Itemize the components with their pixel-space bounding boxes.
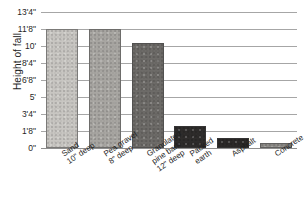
bar (46, 29, 78, 148)
y-axis-tick-label: 5' (0, 93, 36, 102)
gridline (41, 131, 297, 132)
gridline (41, 114, 297, 115)
gridline (41, 97, 297, 98)
y-axis-tick-label: 8'4" (0, 59, 36, 68)
y-axis-tick-label: 10' (0, 42, 36, 51)
y-axis-tick-label: 11'8" (0, 25, 36, 34)
gridline (41, 46, 297, 47)
bar-texture (47, 30, 77, 147)
bar (89, 29, 121, 148)
y-axis-tick-label: 3'4" (0, 110, 36, 119)
y-axis-tick-label: 13'4" (0, 8, 36, 17)
bar-texture (90, 30, 120, 147)
y-axis-tick-label: 0" (0, 144, 36, 153)
bar-texture (133, 44, 163, 147)
gridline (41, 29, 297, 30)
gridline (41, 80, 297, 81)
gridline (41, 63, 297, 64)
bar-chart: Height of fall 13'4"11'8"10'8'4"6'8"5'3'… (0, 0, 308, 217)
y-axis-tick-label: 1'8" (0, 127, 36, 136)
bar (132, 43, 164, 148)
plot-area (41, 12, 297, 148)
gridline (41, 12, 297, 13)
y-axis-tick-label: 6'8" (0, 76, 36, 85)
